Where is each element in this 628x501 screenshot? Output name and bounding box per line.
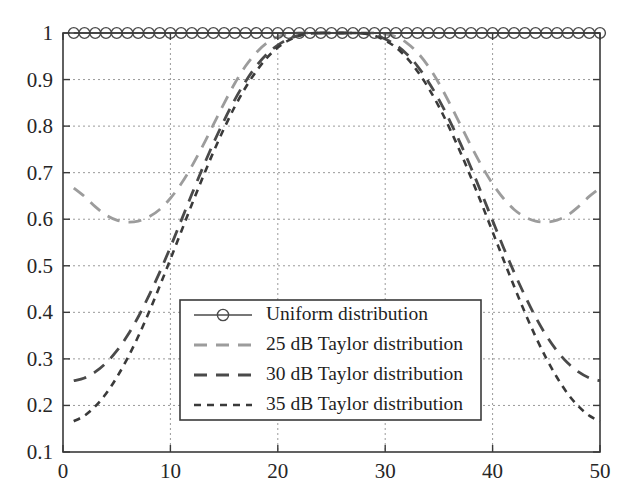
legend-label: 35 dB Taylor distribution bbox=[266, 393, 463, 414]
y-axis-label-0.7: 0.7 bbox=[27, 161, 53, 185]
chart-container: 0.10.20.30.40.50.60.70.80.91 01020304050… bbox=[0, 0, 628, 501]
y-axis-label-0.4: 0.4 bbox=[27, 300, 54, 324]
x-axis-label-0: 0 bbox=[58, 459, 69, 483]
y-axis-label-0.3: 0.3 bbox=[27, 347, 53, 371]
y-axis-label-0.6: 0.6 bbox=[27, 207, 53, 231]
y-axis-label-0.9: 0.9 bbox=[27, 68, 53, 92]
legend-label: 25 dB Taylor distribution bbox=[266, 333, 463, 354]
x-axis-label-40: 40 bbox=[482, 459, 503, 483]
y-axis-label-0.2: 0.2 bbox=[27, 393, 53, 417]
y-axis-label-0.5: 0.5 bbox=[27, 254, 53, 278]
legend-label: Uniform distribution bbox=[266, 303, 428, 324]
x-axis-label-30: 30 bbox=[375, 459, 396, 483]
chart-background bbox=[0, 0, 628, 501]
x-axis-label-20: 20 bbox=[267, 459, 288, 483]
chart-legend[interactable]: Uniform distribution25 dB Taylor distrib… bbox=[180, 300, 481, 420]
y-axis-label-1: 1 bbox=[43, 21, 54, 45]
line-chart: 0.10.20.30.40.50.60.70.80.91 01020304050… bbox=[0, 0, 628, 501]
legend-label: 30 dB Taylor distribution bbox=[266, 363, 463, 384]
x-axis-label-50: 50 bbox=[590, 459, 611, 483]
y-axis-label-0.8: 0.8 bbox=[27, 114, 53, 138]
x-axis-label-10: 10 bbox=[160, 459, 181, 483]
y-axis-label-0.1: 0.1 bbox=[27, 440, 53, 464]
